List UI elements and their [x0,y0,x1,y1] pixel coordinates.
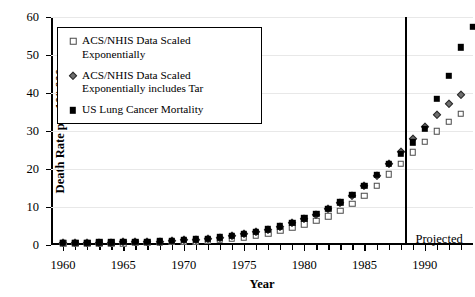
x-axis-tick [268,245,269,250]
data-point-open-square [361,192,368,199]
data-point-open-square [409,149,416,156]
y-axis-tick-label: 30 [27,125,40,138]
legend-entry: ACS/NHIS Data Scaled Exponentially [64,34,255,62]
x-axis-tick [401,245,402,250]
data-point-open-square [325,213,332,220]
x-axis-tick-label: 1970 [171,259,196,272]
data-point-filled-square [144,238,150,244]
data-point-filled-square [446,72,452,78]
gridline [51,131,473,132]
x-axis-tick [340,245,341,250]
data-point-filled-square [422,126,428,132]
data-point-filled-square [410,139,416,145]
data-point-filled-square [192,236,198,242]
data-point-filled-square [265,226,271,232]
data-point-open-square [434,128,441,135]
y-axis-tick: 20 [46,169,51,170]
y-axis-tick-label: 10 [27,201,40,214]
x-axis-tick-label: 1985 [352,259,377,272]
data-point-filled-square [434,96,440,102]
data-point-filled-square [205,235,211,241]
x-axis-tick: 1980 [304,245,305,251]
data-point-filled-square [156,238,162,244]
gridline [51,169,473,170]
x-axis-tick: 1970 [184,245,185,251]
x-axis-tick [389,245,390,250]
legend-marker-filled-square-icon [64,103,82,116]
chart-legend: ACS/NHIS Data Scaled ExponentiallyACS/NH… [57,27,262,124]
data-point-filled-square [373,172,379,178]
data-point-diamond [457,90,466,99]
x-axis-tick [413,245,414,250]
x-axis-tick: 1985 [364,245,365,251]
data-point-filled-square [385,160,391,166]
y-axis-tick: 40 [46,93,51,94]
y-axis-tick-label: 50 [27,49,40,62]
data-point-filled-square [277,223,283,229]
x-axis-tick [328,245,329,250]
data-point-filled-square [289,219,295,225]
y-axis-tick-label: 20 [27,163,40,176]
legend-entry: ACS/NHIS Data Scaled Exponentially inclu… [64,69,255,97]
data-point-filled-square [84,240,90,246]
x-axis-tick [220,245,221,250]
data-point-open-square [446,119,453,126]
x-axis-tick-label: 1960 [51,259,76,272]
data-point-filled-square [60,240,66,246]
data-point-filled-square [132,239,138,245]
y-axis-tick-label: 0 [33,239,39,252]
gridline [51,207,473,208]
data-point-filled-square [349,192,355,198]
data-point-filled-square [180,237,186,243]
x-axis-tick-label: 1975 [231,259,256,272]
diamond-icon [69,71,78,80]
data-point-filled-square [229,233,235,239]
legend-entry-label: ACS/NHIS Data Scaled Exponentially [82,34,255,62]
data-point-open-square [349,201,356,208]
x-axis-tick [377,245,378,250]
data-point-filled-square [337,199,343,205]
data-point-open-square [397,160,404,167]
projection-divider-line [405,17,407,245]
y-axis-title-container: Death Rate per 100,000 [0,17,18,245]
data-point-diamond [432,111,441,120]
chart-figure: Death Rate per 100,000 0102030405060 196… [0,0,475,297]
data-point-filled-square [313,211,319,217]
x-axis-tick-label: 1965 [111,259,136,272]
data-point-filled-square [361,183,367,189]
legend-marker-diamond-icon [64,69,82,82]
y-axis-tick-label: 40 [27,87,40,100]
x-axis-title: Year [51,277,473,292]
y-axis-tick: 30 [46,131,51,132]
data-point-filled-square [72,240,78,246]
legend-entry-label: US Lung Cancer Mortality [82,103,203,117]
data-point-filled-square [397,151,403,157]
y-axis-tick: 10 [46,207,51,208]
data-point-open-square [385,171,392,178]
x-axis-tick [316,245,317,250]
data-point-filled-square [458,44,464,50]
x-axis-tick-label: 1990 [412,259,437,272]
data-point-filled-square [120,239,126,245]
data-point-open-square [373,182,380,189]
data-point-filled-square [241,231,247,237]
data-point-filled-square [108,239,114,245]
data-point-open-square [337,208,344,215]
x-axis-tick [196,245,197,250]
data-point-filled-square [470,24,475,30]
data-point-open-square [458,110,465,117]
data-point-filled-square [168,238,174,244]
y-axis-tick: 0 [46,245,51,246]
data-point-filled-square [301,215,307,221]
data-point-open-square [422,138,429,145]
legend-entry-label: ACS/NHIS Data Scaled Exponentially inclu… [82,69,255,97]
y-axis-tick-label: 60 [27,11,40,24]
x-axis-tick-label: 1980 [292,259,317,272]
x-axis-tick: 1975 [244,245,245,251]
x-axis-tick [292,245,293,250]
x-axis-tick [232,245,233,250]
data-point-filled-square [96,239,102,245]
y-axis-tick: 50 [46,55,51,56]
data-point-filled-square [325,205,331,211]
x-axis-tick [208,245,209,250]
